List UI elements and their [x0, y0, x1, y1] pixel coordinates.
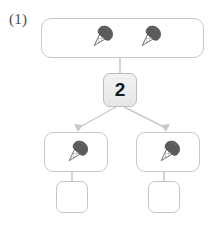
- connector-count-to-right: [124, 107, 166, 128]
- arrowhead-right-icon: [161, 124, 170, 132]
- worksheet-diagram-canvas: (1): [0, 0, 217, 228]
- group-left-box[interactable]: [44, 132, 108, 172]
- answer-box-left[interactable]: [56, 181, 88, 213]
- connector-count-to-left: [78, 107, 116, 128]
- group-right-box[interactable]: [136, 132, 200, 172]
- divisor-box[interactable]: 2: [103, 73, 137, 107]
- answer-box-right[interactable]: [148, 181, 180, 213]
- total-group-box[interactable]: [41, 18, 204, 58]
- problem-number-label: (1): [9, 12, 27, 27]
- ice-cream-cone-icon: [89, 24, 115, 50]
- ice-cream-cone-icon: [64, 139, 90, 165]
- ice-cream-cone-icon: [156, 139, 182, 165]
- arrowhead-left-icon: [74, 124, 83, 132]
- ice-cream-cone-icon: [137, 24, 163, 50]
